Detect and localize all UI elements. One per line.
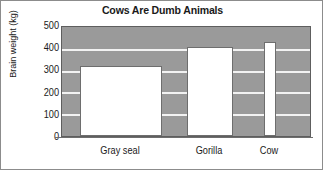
bar — [187, 47, 233, 136]
x-axis-line — [55, 137, 313, 138]
chart-title: Cows Are Dumb Animals — [14, 4, 311, 16]
y-axis-tick-label: 400 — [22, 43, 59, 53]
bar — [264, 42, 275, 136]
chart-figure: Cows Are Dumb Animals Brain weight (kg) … — [0, 0, 323, 170]
y-axis-tick-label: 300 — [22, 65, 59, 75]
y-axis-tick-labels: 0100200300400500 — [19, 21, 59, 139]
y-axis-tick-label: 100 — [22, 110, 59, 120]
y-axis-tick-label: 500 — [22, 21, 59, 31]
x-axis-tick-labels: Gray sealGorillaCow — [61, 144, 311, 160]
y-axis-tick-label: 200 — [22, 88, 59, 98]
bar — [80, 66, 162, 136]
x-axis-tick-label: Gray seal — [83, 144, 157, 158]
y-axis-label: Brain weight (kg) — [6, 0, 20, 92]
plot-area — [61, 26, 311, 137]
x-axis-tick-label: Cow — [232, 144, 306, 158]
y-axis-tick-label: 0 — [22, 132, 59, 142]
